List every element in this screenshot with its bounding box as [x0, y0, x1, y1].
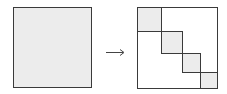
diagram-canvas: [0, 0, 227, 94]
dense-matrix: [14, 8, 92, 88]
diagonal-block-1: [138, 8, 162, 32]
arrow-icon: [106, 50, 124, 56]
diagonal-block-3: [183, 54, 201, 73]
block-diagonal-matrix: [138, 8, 218, 89]
diagonal-block-2: [162, 32, 183, 54]
diagonal-block-4: [201, 73, 218, 89]
